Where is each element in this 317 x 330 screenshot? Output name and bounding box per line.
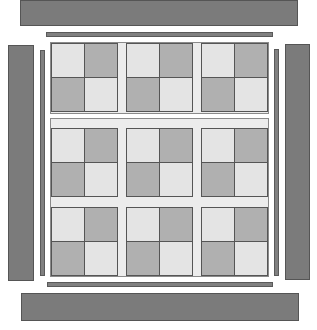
block-3-1-square-light [51,207,85,242]
block-3-2-square-light [159,241,193,276]
block-3-2-square-dark [159,207,193,242]
block-3-3-square-dark [234,207,268,242]
block-3-3-square-light [234,241,268,276]
block-1-2-square-light [126,43,160,78]
block-2-1-square-light [84,162,118,197]
block-2-3-square-dark [201,162,235,197]
block-1-3-square-light [234,77,268,112]
block-2-1-square-dark [51,162,85,197]
block-3-1-square-light [84,241,118,276]
left-inner-strip [40,50,45,276]
block-2-2-square-light [159,162,193,197]
block-2-1-square-dark [84,128,118,163]
block-2-3-square-light [201,128,235,163]
block-1-1-square-light [51,43,85,78]
bottom-inner-strip [47,282,273,287]
block-1-3-square-dark [234,43,268,78]
block-2-3-square-dark [234,128,268,163]
block-2-2-square-dark [159,128,193,163]
block-3-3-square-light [201,207,235,242]
block-3-2-square-light [126,207,160,242]
block-1-3-square-dark [201,77,235,112]
block-2-1-square-light [51,128,85,163]
block-1-1-square-dark [84,43,118,78]
block-1-2-square-dark [126,77,160,112]
left-border-bar [8,45,34,281]
top-inner-strip [46,32,273,37]
block-3-1-square-dark [51,241,85,276]
block-1-1-square-dark [51,77,85,112]
block-1-2-square-dark [159,43,193,78]
right-inner-strip [274,49,279,276]
block-2-2-square-light [126,128,160,163]
block-3-3-square-dark [201,241,235,276]
block-2-2-square-dark [126,162,160,197]
right-border-bar [285,44,310,280]
block-3-1-square-dark [84,207,118,242]
block-1-1-square-light [84,77,118,112]
block-1-3-square-light [201,43,235,78]
block-1-2-square-light [159,77,193,112]
top-border-bar [20,0,298,26]
block-3-2-square-dark [126,241,160,276]
bottom-border-bar [21,293,299,321]
block-2-3-square-light [234,162,268,197]
